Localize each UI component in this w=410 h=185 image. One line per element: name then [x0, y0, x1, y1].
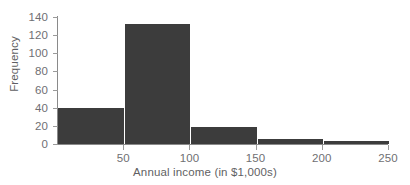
x-tick-label: 200	[299, 152, 345, 165]
y-tick-label: 0	[4, 138, 48, 150]
histogram-bar	[257, 139, 323, 144]
y-tick-mark	[53, 144, 58, 145]
y-axis-title: Frequency	[8, 24, 20, 104]
x-tick-mark	[256, 145, 257, 150]
histogram-bar	[124, 24, 190, 144]
x-tick-mark	[388, 145, 389, 150]
x-tick-mark	[322, 145, 323, 150]
x-tick-label: 50	[100, 152, 146, 165]
x-tick-mark	[189, 145, 190, 150]
x-tick-label: 100	[166, 152, 212, 165]
y-tick-label: 20	[4, 120, 48, 132]
histogram-bars	[58, 17, 388, 144]
histogram-bar	[190, 127, 256, 144]
x-axis-line	[57, 144, 388, 145]
x-tick-mark	[123, 145, 124, 150]
cropped-header-ghost	[0, 0, 410, 2]
y-tick-label: 140	[4, 11, 48, 23]
x-axis-title: Annual income (in $1,000s)	[0, 166, 410, 178]
histogram-bar	[323, 141, 389, 144]
x-tick-label: 150	[233, 152, 279, 165]
histogram-figure: 020406080100120140 50100150200250 Freque…	[0, 0, 410, 185]
histogram-bar	[58, 108, 124, 144]
x-tick-label: 250	[365, 152, 410, 165]
